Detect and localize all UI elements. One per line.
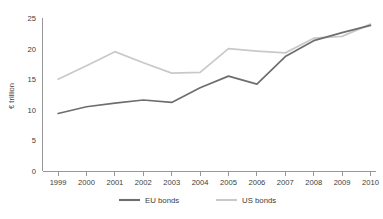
footer-caption <box>8 212 368 219</box>
x-tick-label-2006: 2006 <box>248 178 265 187</box>
series-line-eu-bonds <box>58 25 370 113</box>
y-tick-label-20: 20 <box>28 45 36 54</box>
x-tick-label-2005: 2005 <box>220 178 237 187</box>
x-tick-label-2009: 2009 <box>334 178 351 187</box>
x-tick-label-2000: 2000 <box>78 178 95 187</box>
x-tick-label-2007: 2007 <box>277 178 294 187</box>
y-axis-tick-labels: 25 20 15 10 5 0 <box>28 14 36 176</box>
x-axis-tick-labels: 1999 2000 2001 2002 2003 2004 2005 2006 … <box>50 178 379 187</box>
x-tick-label-2010: 2010 <box>362 178 379 187</box>
y-tick-label-10: 10 <box>28 106 36 115</box>
series-line-us-bonds <box>58 24 370 79</box>
y-axis-title: € trillion <box>7 83 16 109</box>
x-tick-label-1999: 1999 <box>50 178 67 187</box>
y-tick-label-25: 25 <box>28 14 36 23</box>
bond-market-line-chart: € trillion 25 20 15 10 5 0 <box>0 0 383 219</box>
chart-canvas: € trillion 25 20 15 10 5 0 <box>0 0 383 219</box>
chart-legend: EU bonds US bonds <box>119 196 276 205</box>
x-tick-label-2004: 2004 <box>192 178 209 187</box>
y-tick-label-5: 5 <box>32 136 36 145</box>
x-tick-label-2002: 2002 <box>135 178 152 187</box>
x-axis-tick-marks <box>58 172 370 176</box>
y-tick-label-15: 15 <box>28 75 36 84</box>
x-tick-label-2008: 2008 <box>305 178 322 187</box>
legend-label-us-bonds: US bonds <box>242 196 276 205</box>
y-tick-label-0: 0 <box>32 167 36 176</box>
x-tick-label-2003: 2003 <box>163 178 180 187</box>
legend-label-eu-bonds: EU bonds <box>145 196 179 205</box>
x-tick-label-2001: 2001 <box>106 178 123 187</box>
